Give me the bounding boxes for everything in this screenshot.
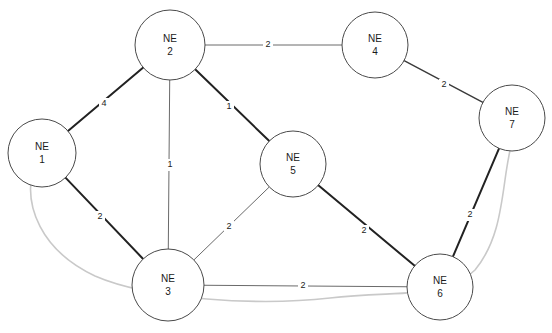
edge-weight-ne2-ne5: 1: [226, 101, 231, 111]
edge-weight-ne5-ne6: 2: [361, 225, 366, 235]
node-ne7[interactable]: NE7: [479, 85, 545, 151]
node-ne5[interactable]: NE5: [260, 131, 326, 197]
edge-weight-ne1-ne3: 2: [97, 211, 102, 221]
node-label-index-ne4: 4: [372, 46, 378, 57]
node-label-index-ne6: 6: [437, 288, 443, 299]
node-label-prefix-ne3: NE: [161, 273, 175, 284]
node-label-index-ne3: 3: [165, 286, 171, 297]
edge-weight-ne2-ne3: 1: [167, 159, 172, 169]
node-label-index-ne2: 2: [167, 46, 173, 57]
node-label-prefix-ne1: NE: [35, 141, 49, 152]
edge-weight-ne3-ne6: 2: [300, 280, 305, 290]
node-ne4[interactable]: NE4: [342, 12, 408, 78]
node-label-prefix-ne5: NE: [286, 152, 300, 163]
network-topology-diagram: 2411222222 NE1NE2NE3NE4NE5NE6NE7: [0, 0, 552, 333]
node-label-prefix-ne7: NE: [505, 106, 519, 117]
edge-weight-ne7-ne6: 2: [467, 209, 472, 219]
node-label-prefix-ne6: NE: [433, 275, 447, 286]
node-ne3[interactable]: NE3: [132, 249, 204, 321]
edge-weight-ne3-ne5: 2: [226, 221, 231, 231]
node-label-prefix-ne2: NE: [163, 33, 177, 44]
node-ne2[interactable]: NE2: [135, 10, 205, 80]
diagram-canvas: 2411222222 NE1NE2NE3NE4NE5NE6NE7: [0, 0, 552, 333]
node-label-prefix-ne4: NE: [368, 33, 382, 44]
edge-weight-ne2-ne4: 2: [265, 39, 270, 49]
node-layer: NE1NE2NE3NE4NE5NE6NE7: [8, 10, 545, 321]
node-label-index-ne7: 7: [509, 119, 515, 130]
node-ne6[interactable]: NE6: [407, 254, 473, 320]
node-label-index-ne5: 5: [290, 165, 296, 176]
edge-weight-ne4-ne7: 2: [441, 79, 446, 89]
node-ne1[interactable]: NE1: [8, 119, 76, 187]
node-label-index-ne1: 1: [39, 154, 45, 165]
edge-weight-ne2-ne1: 4: [101, 98, 106, 108]
